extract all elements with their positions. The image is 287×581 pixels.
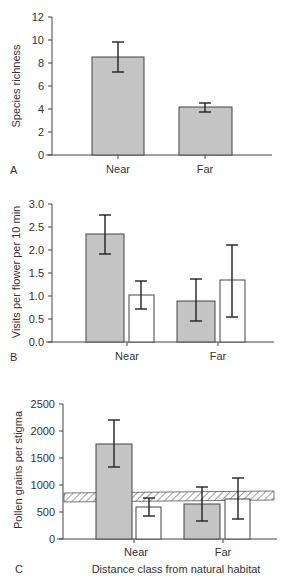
y-tick-label: 1000: [31, 479, 55, 491]
y-axis-label: Pollen grains per stigma: [12, 410, 24, 529]
x-tick-label-near: Near: [124, 546, 148, 558]
y-tick-label: 2: [38, 126, 44, 138]
y-tick-label: 0.0: [29, 336, 44, 348]
panel-b: Visits per flower per 10 min 0.0 0.5 1.0…: [10, 198, 274, 363]
y-tick-label: 6: [38, 80, 44, 92]
y-tick-label: 8: [38, 57, 44, 69]
y-tick-label: 4: [38, 103, 44, 115]
panel-label-c: C: [15, 563, 23, 575]
bar-far: [179, 107, 232, 155]
y-tick-label: 1500: [31, 452, 55, 464]
y-tick-label: 2.0: [29, 244, 44, 256]
y-tick-label: 10: [32, 34, 44, 46]
y-ticks: 0 500 1000 1500 2000 2500: [31, 398, 63, 545]
panel-label-b: B: [10, 351, 17, 363]
y-tick-label: 0: [49, 533, 55, 545]
x-tick-label-far: Far: [210, 350, 227, 362]
y-tick-label: 2000: [31, 425, 55, 437]
panel-c: Pollen grains per stigma 0 500 1000 1500…: [12, 398, 277, 575]
y-axis-label: Species richness: [10, 44, 22, 128]
x-tick-label-far: Far: [215, 546, 232, 558]
x-axis-label: Distance class from natural habitat: [92, 563, 261, 575]
y-tick-label: 1.0: [29, 290, 44, 302]
y-ticks: 0 2 4 6 8 10 12: [32, 11, 52, 161]
y-tick-label: 2.5: [29, 221, 44, 233]
y-axis-label: Visits per flower per 10 min: [10, 206, 22, 338]
y-tick-label: 2500: [31, 398, 55, 410]
y-tick-label: 1.5: [29, 267, 44, 279]
y-tick-label: 3.0: [29, 198, 44, 210]
y-tick-label: 500: [37, 506, 55, 518]
y-ticks: 0.0 0.5 1.0 1.5 2.0 2.5 3.0: [29, 198, 52, 348]
panel-label-a: A: [10, 164, 18, 176]
x-tick-label-near: Near: [106, 163, 130, 175]
y-tick-label: 0.5: [29, 313, 44, 325]
x-tick-label-far: Far: [197, 163, 214, 175]
y-tick-label: 12: [32, 11, 44, 23]
x-tick-label-near: Near: [115, 350, 139, 362]
y-tick-label: 0: [38, 149, 44, 161]
panel-a: Species richness 0 2 4 6 8 10 12: [10, 11, 272, 176]
figure: Species richness 0 2 4 6 8 10 12: [0, 0, 287, 581]
